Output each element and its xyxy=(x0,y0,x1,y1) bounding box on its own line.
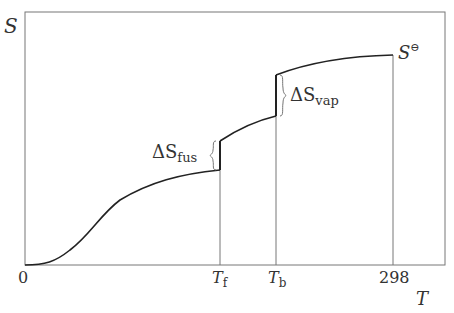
x-axis-label: T xyxy=(416,288,428,309)
tb-tick: Tb xyxy=(268,268,286,287)
dsfus-main: ΔS xyxy=(152,141,177,162)
dsvap-main: ΔS xyxy=(290,84,315,105)
y-axis-label: S xyxy=(4,14,18,38)
delta-s-vap-label: ΔSvap xyxy=(290,84,339,105)
tb-main: T xyxy=(268,268,279,287)
vap-brace-icon xyxy=(280,75,286,116)
tf-sub: f xyxy=(223,276,227,290)
origin-tick: 0 xyxy=(18,268,28,287)
plimsoll-icon: ⊖ xyxy=(410,41,419,54)
gas-phase-curve xyxy=(276,55,393,75)
fus-brace-icon xyxy=(210,141,216,170)
tf-tick: Tf xyxy=(212,268,227,287)
tb-sub: b xyxy=(279,276,287,290)
dsfus-sub: fus xyxy=(177,150,197,165)
entropy-temperature-plot xyxy=(0,0,454,313)
liquid-phase-curve xyxy=(220,116,276,141)
delta-s-fus-label: ΔSfus xyxy=(152,141,197,162)
standard-entropy-label: S⊖ xyxy=(398,42,420,63)
s-std-main: S xyxy=(398,42,410,63)
solid-phase-curve xyxy=(25,170,220,265)
t298-tick: 298 xyxy=(379,268,410,287)
tf-main: T xyxy=(212,268,223,287)
plot-frame xyxy=(25,12,445,265)
dsvap-sub: vap xyxy=(315,93,338,108)
